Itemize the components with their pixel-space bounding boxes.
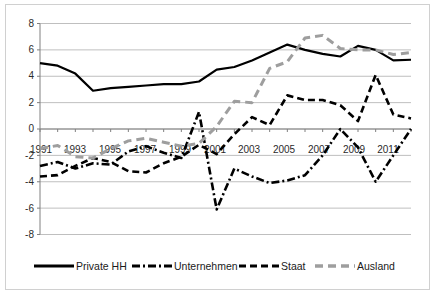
chart-plot-svg [0,0,435,295]
series-line-unternehmen [40,112,411,210]
series-line-private-hh [40,45,411,91]
chart-container: 8 6 4 2 0 -2 -4 -6 -8 1991 1993 1995 199… [0,0,435,295]
axis-lines-group [40,24,411,235]
series-lines-group [40,35,411,209]
series-line-ausland [40,35,411,158]
